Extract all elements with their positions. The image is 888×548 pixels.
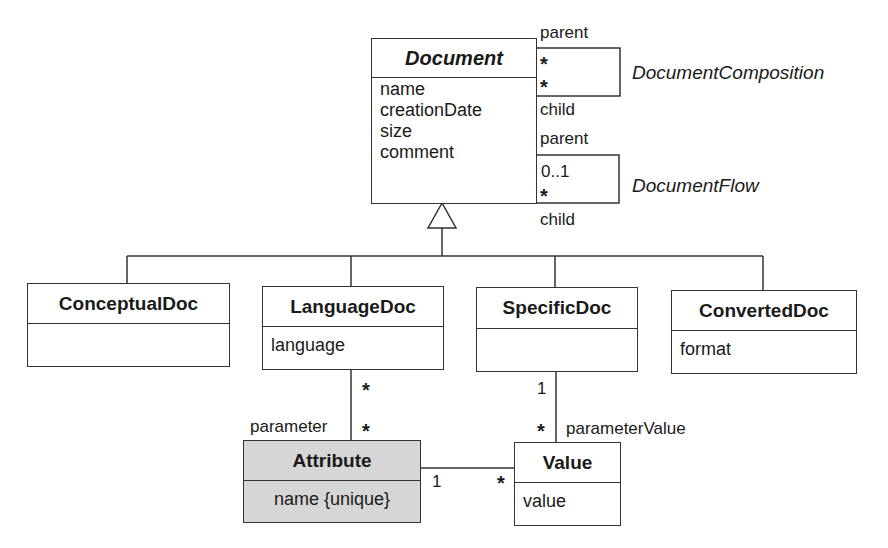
flow-role-parent: parent bbox=[540, 130, 588, 147]
class-converteddoc[interactable]: ConvertedDoc format bbox=[671, 290, 857, 374]
class-languagedoc[interactable]: LanguageDoc language bbox=[262, 286, 444, 370]
class-document[interactable]: Document name creationDate size comment bbox=[371, 38, 537, 204]
flow-mult-bottom: * bbox=[540, 186, 548, 206]
composition-assoc-name: DocumentComposition bbox=[632, 63, 824, 82]
spec-value-role: parameterValue bbox=[566, 420, 686, 437]
attr-value-mult-left: 1 bbox=[432, 473, 441, 490]
attribute: creationDate bbox=[380, 100, 528, 121]
composition-role-child: child bbox=[540, 101, 575, 118]
class-attributes: format bbox=[672, 331, 856, 364]
class-value[interactable]: Value value bbox=[514, 442, 621, 526]
attribute: format bbox=[680, 339, 848, 360]
class-name: Value bbox=[515, 443, 620, 483]
class-name: Attribute bbox=[244, 441, 420, 481]
attribute: name {unique} bbox=[252, 489, 412, 510]
flow-mult-top: 0..1 bbox=[541, 163, 569, 180]
composition-mult-bottom: * bbox=[540, 77, 548, 97]
class-name: SpecificDoc bbox=[477, 288, 637, 329]
attribute: size bbox=[380, 121, 528, 142]
class-name: ConceptualDoc bbox=[28, 284, 229, 324]
class-name: Document bbox=[372, 39, 536, 78]
class-specificdoc[interactable]: SpecificDoc bbox=[476, 287, 638, 372]
flow-assoc-name: DocumentFlow bbox=[632, 176, 759, 195]
lang-attr-mult-top: * bbox=[362, 380, 370, 400]
composition-loop bbox=[536, 48, 620, 96]
spec-value-mult-top: 1 bbox=[537, 380, 546, 397]
flow-role-child: child bbox=[540, 211, 575, 228]
class-attributes: name {unique} bbox=[244, 481, 420, 514]
composition-mult-top: * bbox=[540, 54, 548, 74]
generalization-triangle-icon bbox=[428, 203, 456, 228]
class-name: ConvertedDoc bbox=[672, 291, 856, 331]
class-attributes: value bbox=[515, 483, 620, 516]
attribute: language bbox=[271, 335, 435, 356]
class-attributes: name creationDate size comment bbox=[372, 78, 536, 167]
lang-attr-mult-bottom: * bbox=[362, 421, 370, 441]
attr-value-mult-right: * bbox=[497, 473, 505, 493]
class-conceptualdoc[interactable]: ConceptualDoc bbox=[27, 283, 230, 367]
attribute: comment bbox=[380, 142, 528, 163]
composition-role-parent: parent bbox=[540, 24, 588, 41]
attribute: name bbox=[380, 79, 528, 100]
lang-attr-role: parameter bbox=[250, 418, 327, 435]
spec-value-mult-bottom: * bbox=[537, 421, 545, 441]
class-attribute[interactable]: Attribute name {unique} bbox=[243, 440, 421, 523]
class-attributes: language bbox=[263, 327, 443, 360]
class-name: LanguageDoc bbox=[263, 287, 443, 327]
attribute: value bbox=[523, 491, 612, 512]
